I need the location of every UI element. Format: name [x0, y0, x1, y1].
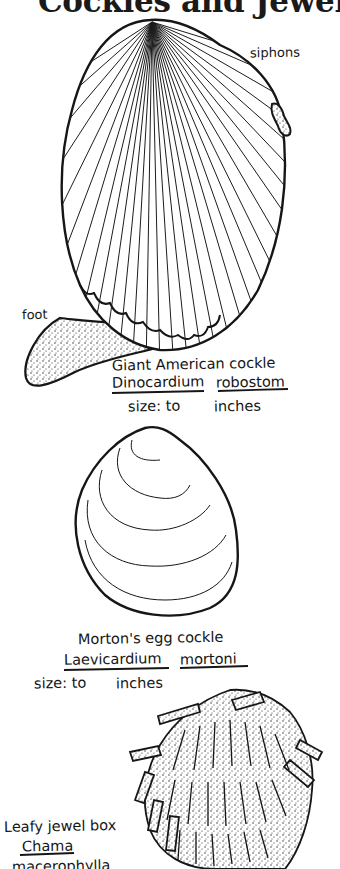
- jewel-box-drawing: [130, 690, 322, 869]
- shell-illustrations: [0, 0, 340, 869]
- giant-cockle-species: robostom: [216, 373, 285, 390]
- egg-cockle-size-prefix: size: to: [34, 675, 86, 692]
- egg-cockle-common-name: Morton's egg cockle: [78, 629, 224, 648]
- giant-cockle-size-unit: inches: [214, 398, 261, 415]
- egg-cockle-species: mortoni: [180, 651, 237, 668]
- egg-cockle-genus: Laevicardium: [64, 650, 162, 668]
- jewel-box-common-name: Leafy jewel box: [4, 817, 117, 835]
- giant-cockle-common-name: Giant American cockle: [112, 355, 276, 374]
- giant-cockle-genus: Dinocardium: [112, 373, 205, 391]
- egg-cockle-drawing: [76, 427, 238, 615]
- jewel-box-species: macerophylla: [12, 857, 111, 869]
- foot-label: foot: [22, 307, 48, 322]
- egg-cockle-size-unit: inches: [116, 675, 163, 692]
- giant-cockle-size-prefix: size: to: [128, 398, 180, 415]
- jewel-box-genus: Chama: [22, 838, 73, 855]
- siphons-label: siphons: [250, 45, 300, 61]
